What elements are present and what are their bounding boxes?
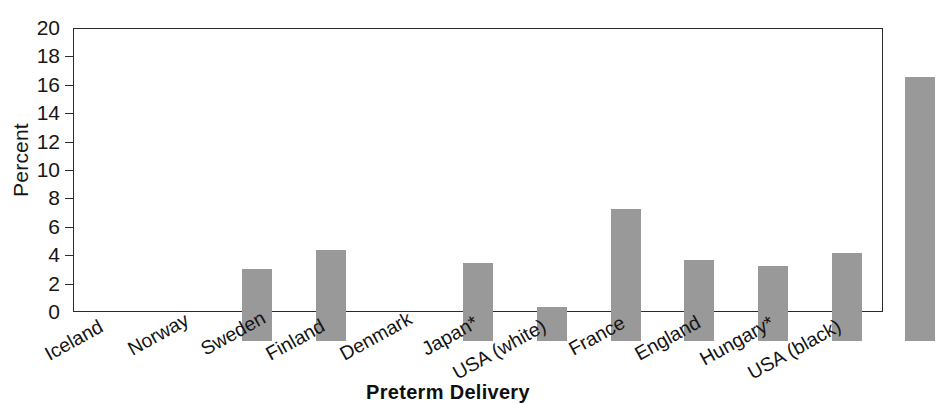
x-category-label: Finland (262, 315, 328, 364)
x-category-label: England (631, 311, 703, 363)
bar[interactable] (905, 77, 935, 341)
x-category-label: Sweden (197, 307, 268, 359)
x-category-label: Denmark (336, 308, 415, 364)
x-axis-title: Preterm Delivery (0, 381, 896, 404)
x-category-label: Iceland (42, 316, 107, 364)
x-category-label: France (566, 312, 629, 359)
x-category-label: Norway (124, 309, 192, 359)
